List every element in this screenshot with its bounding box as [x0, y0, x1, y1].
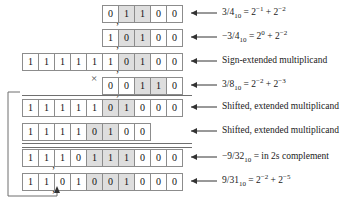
bit-cell: 0: [70, 149, 87, 167]
bit-cell: 0: [134, 123, 151, 141]
bit-cell: 1: [118, 99, 135, 117]
annotation-arrow: [190, 100, 218, 116]
alignment-bracket: [4, 90, 64, 204]
bit-cell: 0: [166, 149, 183, 167]
bit-cell: 0: [118, 53, 135, 71]
bit-cell: 0: [166, 77, 183, 95]
row-annotation: Sign-extended multiplicand: [222, 52, 327, 68]
annotation-arrow: [190, 124, 218, 140]
bit-cell: 1: [118, 149, 135, 167]
bit-cell: 1: [134, 29, 151, 47]
bit-cell: 1: [38, 53, 55, 71]
row-annotation: −3/410 = 20 + 2−2: [222, 28, 287, 44]
bit-cell: 1: [118, 173, 135, 191]
bit-row-multiplier: 0, 0 1 1 0: [102, 77, 183, 95]
bit-cell: 1: [22, 53, 39, 71]
bit-cell: 0,: [102, 5, 119, 23]
bit-cell: 1: [54, 53, 71, 71]
bit-cell: 0: [118, 77, 135, 95]
bit-cell: 0: [150, 173, 167, 191]
bit-cell: 1: [70, 99, 87, 117]
bit-cell: 1: [86, 99, 103, 117]
bit-cell: 1: [102, 149, 119, 167]
bit-cell: 1: [86, 149, 103, 167]
binary-multiplication-diagram: 0, 1 1 0 0 3/410 = 2−1 + 2−2 1, 0 1 0 0 …: [0, 0, 352, 216]
bit-cell: 0: [134, 99, 151, 117]
bit-cell: 1: [86, 53, 103, 71]
bit-cell: 1: [134, 53, 151, 71]
bit-cell: 0: [118, 123, 135, 141]
bit-cell: 0: [150, 149, 167, 167]
row-annotation: 9/3110 = 2−2 + 2−5: [222, 172, 291, 188]
bit-cell: 1: [134, 77, 151, 95]
bit-row-sign-extended-multiplicand: 1 1 1 1 1 1, 0 1 0 0: [22, 53, 183, 71]
bit-cell: 1: [118, 5, 135, 23]
bit-row-negative-multiplicand: 1, 0 1 0 0: [102, 29, 183, 47]
bit-cell: 0: [166, 173, 183, 191]
bit-cell: 0: [150, 29, 167, 47]
bit-cell: 1: [70, 123, 87, 141]
bit-cell: 0: [166, 5, 183, 23]
annotation-arrow: [190, 150, 218, 166]
annotation-arrow: [190, 54, 218, 70]
bit-cell: 0,: [102, 77, 119, 95]
bit-cell: 0: [166, 29, 183, 47]
row-annotation: 3/410 = 2−1 + 2−2: [222, 4, 286, 20]
bit-cell: 1: [102, 123, 119, 141]
annotation-arrow: [190, 174, 218, 190]
bit-cell: 0: [150, 5, 167, 23]
bit-cell: 0: [150, 99, 167, 117]
row-annotation: −9/3210 = in 2s complement: [222, 148, 329, 164]
bit-cell: 0: [102, 99, 119, 117]
annotation-arrow: [190, 78, 218, 94]
bit-cell: 0: [150, 53, 167, 71]
bit-cell: 0: [134, 173, 151, 191]
bit-cell: 1: [150, 77, 167, 95]
bit-cell: 1,: [102, 29, 119, 47]
row-annotation: Shifted, extended multiplicand: [222, 122, 339, 138]
bit-row-multiplicand: 0, 1 1 0 0: [102, 5, 183, 23]
bit-cell: 0: [166, 99, 183, 117]
bit-cell: 0: [102, 173, 119, 191]
bit-cell: 1: [70, 53, 87, 71]
bit-cell: 1: [134, 5, 151, 23]
row-annotation: 3/810 = 2−2 + 2−3: [222, 76, 286, 92]
bit-cell: 1: [70, 173, 87, 191]
row-annotation: Shifted, extended multiplicand: [222, 98, 339, 114]
bit-cell: 0: [86, 173, 103, 191]
bit-cell: 0: [86, 123, 103, 141]
bit-cell: 0: [118, 29, 135, 47]
bit-cell: 0: [134, 149, 151, 167]
bit-cell: 1,: [102, 53, 119, 71]
multiply-sign: ×: [91, 73, 97, 84]
annotation-arrow: [190, 30, 218, 46]
annotation-arrow: [190, 6, 218, 22]
bit-cell: 0: [166, 53, 183, 71]
